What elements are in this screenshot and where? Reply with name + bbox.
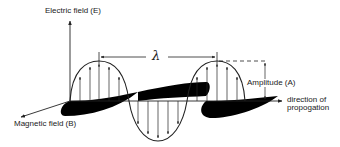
amplitude-label: Amplitude (A) — [247, 78, 295, 87]
direction-label-line2: propogation — [287, 103, 329, 112]
electric-field-label: Electric field (E) — [45, 6, 101, 15]
electric-vectors-trough — [138, 101, 178, 138]
wavelength-label: λ — [152, 48, 160, 63]
electric-vectors-crest-1 — [80, 64, 119, 101]
magnetic-field-label: Magnetic field (B) — [14, 119, 76, 128]
